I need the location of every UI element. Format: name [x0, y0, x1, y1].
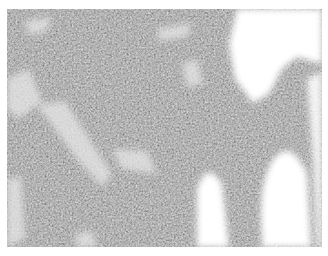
histology-micrograph	[7, 9, 322, 247]
tissue-image	[7, 9, 322, 247]
